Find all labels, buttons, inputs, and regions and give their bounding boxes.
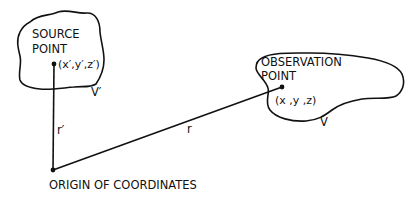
source-vector-label: r′	[57, 123, 65, 137]
source-title-line1: SOURCE	[32, 27, 79, 41]
observation-position-vector	[53, 87, 282, 170]
source-title-line2: POINT	[32, 42, 68, 56]
observation-point-dot	[280, 85, 285, 90]
source-observation-diagram: SOURCE POINT (x′,y′,z′) V′ OBSERVATION P…	[0, 0, 412, 199]
source-coords: (x′,y′,z′)	[58, 58, 100, 71]
source-position-vector	[53, 64, 54, 170]
observation-title-line2: POINT	[261, 69, 297, 83]
source-volume-label: V′	[91, 85, 102, 99]
origin-dot	[51, 168, 56, 173]
observation-vector-label: r	[187, 122, 192, 136]
source-point-dot	[52, 62, 57, 67]
observation-volume-label: V	[320, 115, 328, 129]
origin-label: ORIGIN OF COORDINATES	[49, 178, 197, 192]
observation-coords: (x ,y ,z)	[275, 94, 316, 107]
observation-title-line1: OBSERVATION	[261, 55, 342, 69]
